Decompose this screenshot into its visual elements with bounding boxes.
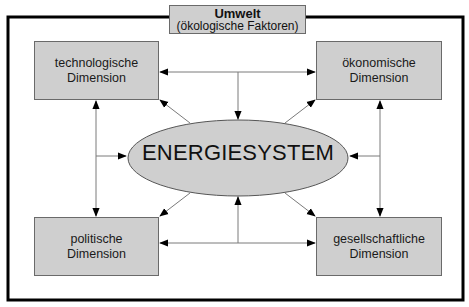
technological-dimension-box: technologische Dimension [34,41,159,100]
box-line1: gesellschaftliche [333,232,425,247]
environment-subtitle: (ökologische Faktoren) [170,20,305,33]
environment-label: Umwelt (ökologische Faktoren) [169,5,306,34]
social-dimension-box: gesellschaftliche Dimension [316,217,442,276]
energy-system-label: ENERGIESYSTEM [127,140,349,166]
political-dimension-box: politische Dimension [34,217,159,276]
box-line1: technologische [55,56,138,71]
box-line1: politische [70,232,122,247]
economic-dimension-box: ökonomische Dimension [316,41,442,100]
box-line2: Dimension [67,247,126,262]
box-line2: Dimension [349,247,408,262]
energy-system-diagram: Umwelt (ökologische Faktoren) technologi… [0,0,469,307]
box-line1: ökonomische [342,56,416,71]
box-line2: Dimension [349,71,408,86]
box-line2: Dimension [67,71,126,86]
